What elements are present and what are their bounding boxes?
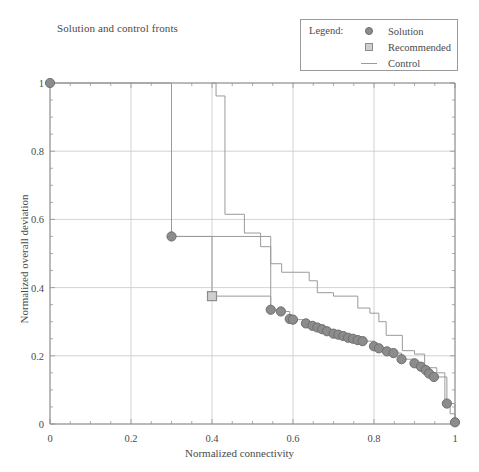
circle-marker-icon xyxy=(356,27,382,35)
legend-heading: Legend: xyxy=(309,25,343,36)
x-tick-label: 0.6 xyxy=(286,433,299,444)
legend-entry-control: Control xyxy=(356,55,456,71)
y-tick-label: 1 xyxy=(22,78,44,89)
square-marker-icon xyxy=(356,43,382,51)
y-tick-label: 0 xyxy=(22,419,44,430)
line-marker-icon xyxy=(356,63,382,64)
legend-label-control: Control xyxy=(382,58,420,69)
legend-label-solution: Solution xyxy=(382,26,424,37)
x-tick-label: 0.4 xyxy=(205,433,218,444)
figure-title: Solution and control fronts xyxy=(57,22,178,34)
x-axis-label: Normalized connectivity xyxy=(0,447,479,459)
control-front-line xyxy=(212,83,455,424)
solution-markers xyxy=(45,78,459,426)
axis-lines xyxy=(50,83,455,424)
x-tick-label: 0 xyxy=(47,433,52,444)
x-tick-label: 0.8 xyxy=(367,433,380,444)
x-tick-label: 0.2 xyxy=(124,433,137,444)
y-axis-label: Normalized overall deviation xyxy=(18,149,30,369)
legend-entry-recommended: Recommended xyxy=(356,39,456,55)
figure-container: Solution and control fronts Legend: Solu… xyxy=(0,0,479,472)
solution-front-line xyxy=(50,83,455,422)
recommended-marker xyxy=(208,292,217,301)
legend-entry-solution: Solution xyxy=(356,23,456,39)
grid-lines xyxy=(50,83,455,424)
legend: Legend: Solution Recommended Control xyxy=(300,19,458,71)
x-tick-label: 1 xyxy=(452,433,457,444)
axis-ticks xyxy=(50,83,455,424)
legend-label-recommended: Recommended xyxy=(382,42,451,53)
legend-entries: Solution Recommended Control xyxy=(356,23,456,71)
